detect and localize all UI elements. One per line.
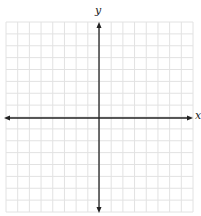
x-axis-right-arrow-icon bbox=[187, 116, 193, 121]
axes bbox=[4, 22, 193, 213]
x-axis-left-arrow-icon bbox=[4, 116, 10, 121]
coordinate-plane bbox=[0, 0, 201, 216]
y-axis-label: y bbox=[95, 5, 101, 16]
y-axis-up-arrow-icon bbox=[97, 22, 102, 28]
x-axis-label: x bbox=[195, 110, 201, 121]
